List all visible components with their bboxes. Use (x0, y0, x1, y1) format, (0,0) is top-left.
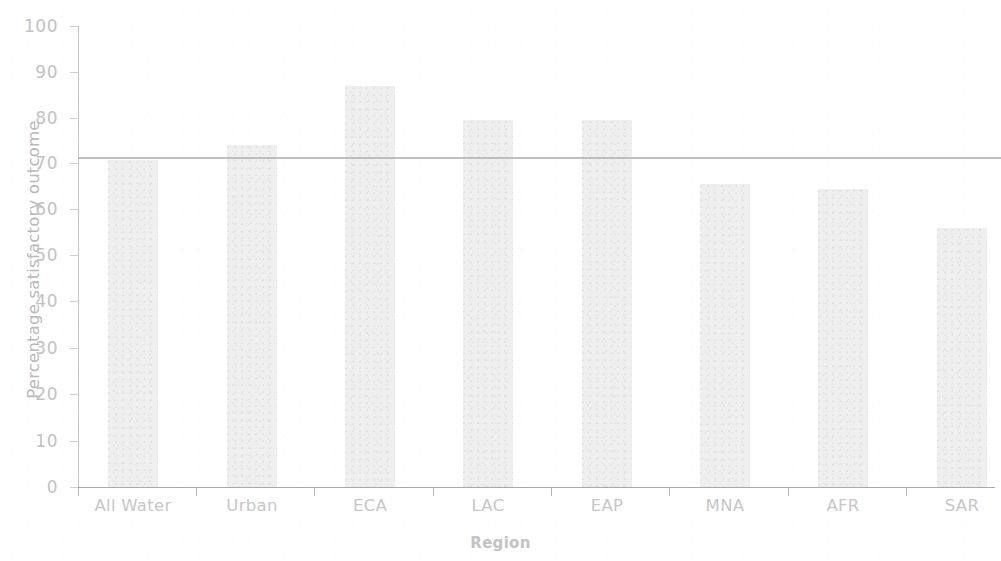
x-tick-label-all-water: All Water (94, 496, 171, 515)
y-tick-label: 10 (14, 431, 58, 451)
bar-eca (345, 86, 395, 487)
y-tick-mark (70, 301, 79, 302)
bar-all-water (108, 160, 158, 487)
x-tick-label-urban: Urban (226, 496, 277, 515)
y-tick-mark (70, 209, 79, 210)
y-tick-label: 100 (14, 16, 58, 36)
y-tick-mark (70, 163, 79, 164)
bar-eap (582, 120, 632, 487)
bar-sar (937, 228, 987, 487)
y-tick-label: 40 (14, 291, 58, 311)
y-tick-label: 50 (14, 245, 58, 265)
x-tick-label-afr: AFR (826, 496, 859, 515)
y-tick-mark (70, 72, 79, 73)
y-tick-mark (70, 394, 79, 395)
x-tick-mark (433, 488, 434, 496)
x-axis-line (78, 487, 995, 488)
x-tick-mark (196, 488, 197, 496)
y-tick-mark (70, 26, 79, 27)
y-tick-mark (70, 118, 79, 119)
x-tick-mark (314, 488, 315, 496)
x-axis-title: Region (0, 534, 1001, 552)
y-tick-label: 20 (14, 384, 58, 404)
y-tick-label: 90 (14, 62, 58, 82)
y-tick-mark (70, 255, 79, 256)
x-tick-label-sar: SAR (945, 496, 979, 515)
y-tick-label: 0 (14, 477, 58, 497)
bar-chart: Percentage satisfactory outcome 0 10 20 … (0, 0, 1001, 561)
bar-mna (700, 184, 750, 487)
x-tick-mark (669, 488, 670, 496)
y-tick-label: 70 (14, 153, 58, 173)
x-tick-label-lac: LAC (472, 496, 505, 515)
y-tick-label: 80 (14, 108, 58, 128)
x-tick-mark (906, 488, 907, 496)
x-tick-label-eap: EAP (591, 496, 624, 515)
y-tick-mark (70, 348, 79, 349)
x-tick-mark (551, 488, 552, 496)
x-tick-label-mna: MNA (706, 496, 745, 515)
y-tick-label: 60 (14, 199, 58, 219)
x-tick-label-eca: ECA (353, 496, 387, 515)
y-tick-mark (70, 441, 79, 442)
x-tick-mark (78, 488, 79, 496)
reference-line (78, 157, 1001, 159)
bar-afr (818, 189, 868, 487)
bar-urban (227, 145, 277, 487)
y-axis-line (78, 26, 79, 488)
bar-lac (463, 120, 513, 487)
y-tick-label: 30 (14, 338, 58, 358)
x-tick-mark (788, 488, 789, 496)
